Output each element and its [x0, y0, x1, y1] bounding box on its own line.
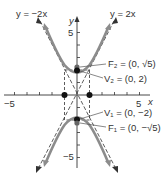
hyperbola-diagram: y = −2x y = 2x y x 5 −5 −5 5 F₂ = (0, √5…	[0, 0, 168, 179]
x-axis-label: x	[147, 96, 154, 107]
y-tick-label-neg5: −5	[63, 151, 74, 162]
f2-label: F₂ = (0, √5)	[108, 58, 156, 69]
v1-label: V₁ = (0, −2)	[104, 107, 152, 118]
arrow-asymptote-br	[112, 166, 118, 173]
y-axis-arrow	[75, 16, 80, 22]
y-axis-label: y	[68, 15, 75, 26]
asymptote-neg-label: y = −2x	[16, 8, 47, 19]
arrow-branch-bl	[43, 160, 49, 167]
arrow-branch-tr	[105, 23, 111, 30]
vertex-v2-point	[74, 68, 80, 74]
arrow-branch-br	[105, 160, 111, 167]
arrow-asymptote-bl	[36, 166, 42, 173]
x-tick-label-neg5: −5	[4, 98, 15, 109]
y-tick-label-5: 5	[68, 27, 73, 38]
co-vertex-right-point	[87, 92, 93, 98]
asymptote-pos-label: y = 2x	[110, 8, 136, 19]
leader-f2	[80, 64, 106, 67]
focus-f1-point	[74, 120, 79, 125]
v2-label: V₂ = (0, 2)	[104, 73, 147, 84]
leader-v1	[80, 112, 103, 119]
arrow-branch-tl	[43, 23, 49, 30]
co-vertex-left-point	[62, 92, 68, 98]
leader-v2	[80, 71, 103, 78]
f1-label: F₁ = (0, −√5)	[108, 122, 161, 133]
